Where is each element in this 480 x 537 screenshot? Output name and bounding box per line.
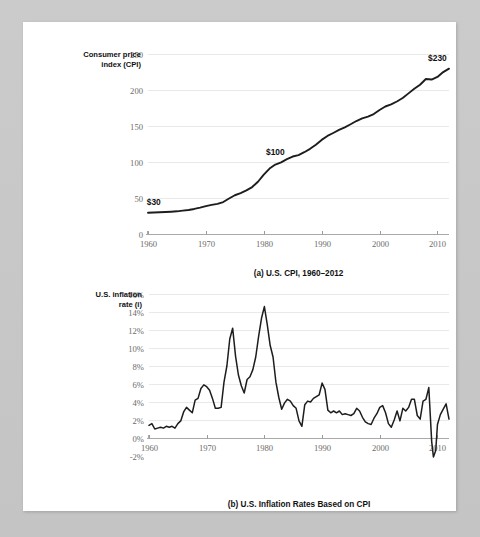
x-axis-tick-label: 1990	[314, 239, 331, 249]
x-axis-tick-label: 1990	[314, 443, 331, 453]
x-axis-tick-label: 2000	[372, 239, 389, 249]
y-axis-tick-label: 4%	[133, 398, 144, 408]
y-axis-tick-label: 50	[134, 194, 143, 204]
figure-inflation: 16%14%12%10%8%6%4%2%0%-2%196019701980199…	[23, 280, 456, 511]
x-axis-tick-label: 1970	[199, 443, 216, 453]
chart-cpi: 250200150100500196019701980199020002010C…	[23, 30, 456, 280]
y-axis-title-line2: index (CPI)	[101, 60, 141, 69]
y-axis-tick-label: 200	[130, 86, 143, 96]
chart-inflation: 16%14%12%10%8%6%4%2%0%-2%196019701980199…	[23, 280, 456, 511]
x-axis-tick-label: 1980	[256, 443, 273, 453]
y-axis-title-line1: Consumer price	[83, 50, 141, 59]
figure-caption: (b) U.S. Inflation Rates Based on CPI	[228, 500, 370, 509]
page-frame: 250200150100500196019701980199020002010C…	[0, 0, 480, 537]
x-axis-tick-label: 1960	[140, 239, 157, 249]
x-axis-tick-label: 2010	[429, 239, 446, 249]
data-annotation-label: $30	[147, 197, 161, 207]
x-axis-tick-label: 1970	[198, 239, 215, 249]
y-axis-tick-label: 12%	[128, 326, 144, 336]
y-axis-tick-label: -2%	[130, 452, 144, 462]
document-page: 250200150100500196019701980199020002010C…	[23, 22, 456, 511]
y-axis-tick-label: 14%	[128, 308, 144, 318]
data-annotation-label: $100	[266, 147, 285, 157]
y-axis-title-line1: U.S. inflation	[96, 290, 143, 299]
data-series-line	[149, 307, 449, 457]
figure-cpi: 250200150100500196019701980199020002010C…	[23, 30, 456, 280]
y-axis-tick-label: 6%	[133, 380, 144, 390]
y-axis-tick-label: 8%	[133, 362, 144, 372]
y-axis-tick-label: 10%	[128, 344, 144, 354]
figure-caption: (a) U.S. CPI, 1960–2012	[254, 269, 344, 278]
x-axis-tick-label: 1960	[141, 443, 158, 453]
y-axis-title-line2: rate (i)	[119, 300, 143, 309]
y-axis-tick-label: 150	[130, 122, 143, 132]
data-annotation-label: $230	[428, 53, 447, 63]
y-axis-tick-label: 2%	[133, 416, 144, 426]
y-axis-tick-label: 100	[130, 158, 143, 168]
x-axis-tick-label: 1980	[256, 239, 273, 249]
x-axis-tick-label: 2000	[372, 443, 389, 453]
